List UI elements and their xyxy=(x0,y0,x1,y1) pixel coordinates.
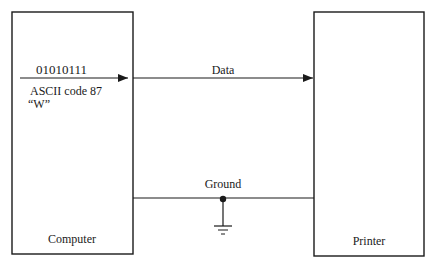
computer-box: Computer xyxy=(12,12,133,254)
diagram-canvas: Computer Printer 01010111 ASCII code 87 … xyxy=(0,0,431,264)
ground-symbol-icon xyxy=(214,199,232,234)
ground-line: Ground xyxy=(133,177,314,234)
data-line: Data xyxy=(133,63,313,78)
printer-box: Printer xyxy=(314,12,424,256)
computer-label: Computer xyxy=(48,232,96,246)
data-label: Data xyxy=(212,63,235,77)
binary-value: 01010111 xyxy=(36,62,87,77)
byte-arrow: 01010111 ASCII code 87 “W” xyxy=(20,62,128,111)
character-label: “W” xyxy=(28,97,50,111)
printer-label: Printer xyxy=(353,234,386,248)
ascii-code-label: ASCII code 87 xyxy=(30,84,102,98)
ground-label: Ground xyxy=(205,177,242,191)
